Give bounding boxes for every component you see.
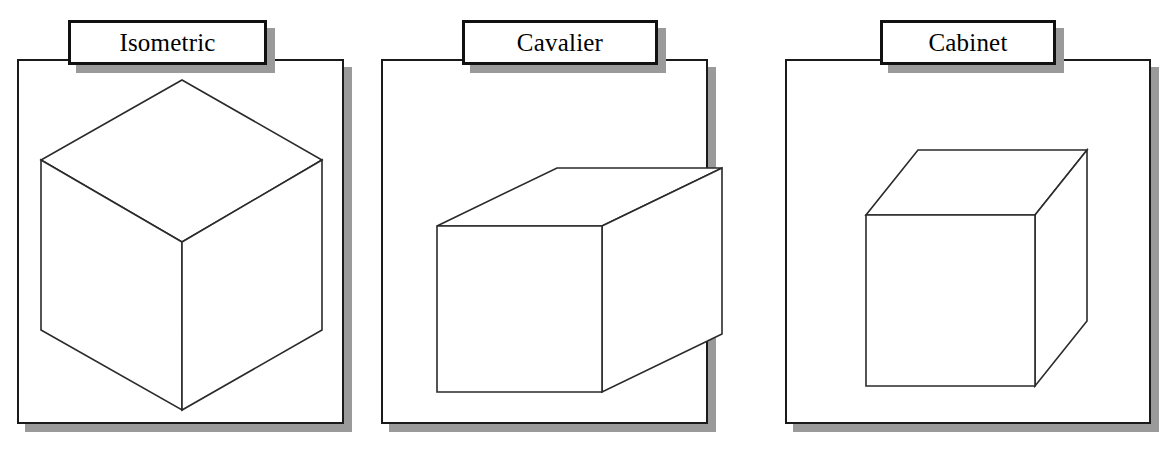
panel-label-text-cavalier: Cavalier — [517, 30, 603, 55]
panel-label-isometric: Isometric — [68, 20, 267, 65]
projection-comparison-figure: Isometric Cavalier — [0, 0, 1171, 452]
panel-label-text-cabinet: Cabinet — [928, 30, 1007, 55]
cube-face-front-cabinet — [866, 215, 1035, 386]
panel-label-cavalier: Cavalier — [462, 20, 658, 65]
panel-label-text-isometric: Isometric — [119, 30, 215, 55]
panel-label-cabinet: Cabinet — [880, 20, 1056, 65]
